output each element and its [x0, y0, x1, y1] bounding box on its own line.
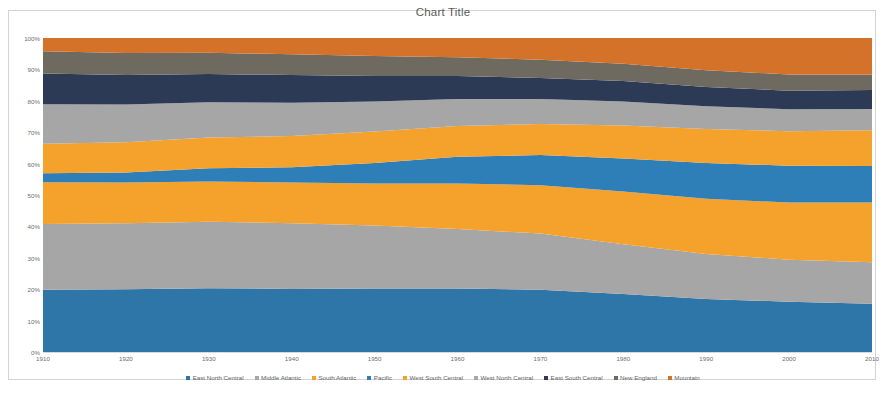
y-axis-tick: 50% — [28, 192, 40, 199]
legend-label: New England — [620, 374, 657, 381]
y-axis-tick: 30% — [28, 254, 40, 261]
legend-label: West North Central — [481, 374, 534, 381]
legend-swatch-icon — [474, 376, 478, 380]
x-axis-tick: 1910 — [36, 355, 50, 362]
y-axis-tick: 90% — [28, 66, 40, 73]
x-axis-tick: 1970 — [534, 355, 548, 362]
stacked-area-series — [43, 38, 872, 352]
legend-item[interactable]: Mountain — [668, 374, 700, 381]
y-axis: 100%90%80%70%60%50%40%30%20%10%0% — [14, 38, 40, 352]
y-axis-tick: 70% — [28, 129, 40, 136]
legend-swatch-icon — [255, 376, 259, 380]
x-axis-tick: 1940 — [285, 355, 299, 362]
y-axis-tick: 40% — [28, 223, 40, 230]
legend-item[interactable]: South Atlantic — [312, 374, 356, 381]
chart-title: Chart Title — [0, 6, 886, 18]
chart-container: Chart Title 100%90%80%70%60%50%40%30%20%… — [0, 0, 886, 400]
plot-area — [43, 38, 872, 352]
x-axis-tick: 1950 — [368, 355, 382, 362]
legend-item[interactable]: New England — [614, 374, 657, 381]
legend-label: East North Central — [193, 374, 244, 381]
legend-swatch-icon — [312, 376, 316, 380]
y-axis-tick: 100% — [24, 35, 40, 42]
x-axis-tick: 1960 — [451, 355, 465, 362]
x-axis-tick: 2010 — [865, 355, 879, 362]
x-axis-tick: 1930 — [202, 355, 216, 362]
legend-swatch-icon — [367, 376, 371, 380]
y-axis-tick: 60% — [28, 160, 40, 167]
legend-label: East South Central — [551, 374, 603, 381]
legend-label: Middle Atlantic — [261, 374, 301, 381]
legend-label: Mountain — [674, 374, 699, 381]
legend-label: South Atlantic — [318, 374, 356, 381]
legend-swatch-icon — [544, 376, 548, 380]
legend-item[interactable]: West South Central — [403, 374, 463, 381]
x-axis: 1910192019301940195019601970198019902000… — [43, 355, 872, 369]
x-axis-tick: 1990 — [699, 355, 713, 362]
legend-item[interactable]: West North Central — [474, 374, 533, 381]
legend-label: West South Central — [410, 374, 464, 381]
x-axis-line — [43, 352, 872, 353]
chart-legend: East North CentralMiddle AtlanticSouth A… — [0, 374, 886, 381]
legend-swatch-icon — [403, 376, 407, 380]
x-axis-tick: 1980 — [616, 355, 630, 362]
legend-swatch-icon — [614, 376, 618, 380]
x-axis-tick: 2000 — [782, 355, 796, 362]
legend-label: Pacific — [374, 374, 392, 381]
legend-item[interactable]: East North Central — [186, 374, 243, 381]
y-axis-tick: 20% — [28, 286, 40, 293]
y-axis-tick: 10% — [28, 317, 40, 324]
legend-item[interactable]: Pacific — [367, 374, 392, 381]
legend-swatch-icon — [668, 376, 672, 380]
y-axis-tick: 80% — [28, 97, 40, 104]
legend-item[interactable]: Middle Atlantic — [255, 374, 301, 381]
x-axis-tick: 1920 — [119, 355, 133, 362]
legend-swatch-icon — [186, 376, 190, 380]
legend-item[interactable]: East South Central — [544, 374, 602, 381]
